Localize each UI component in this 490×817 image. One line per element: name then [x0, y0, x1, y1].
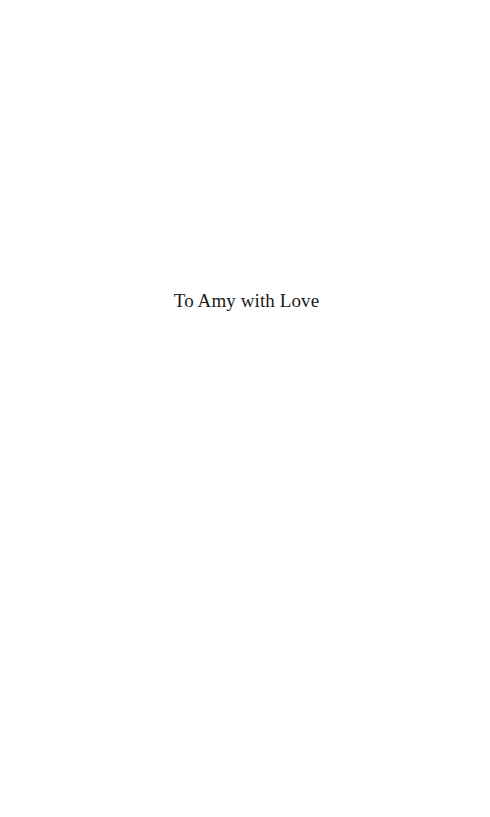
dedication-text: To Amy with Love: [0, 289, 490, 313]
dedication-page: To Amy with Love: [0, 0, 490, 817]
